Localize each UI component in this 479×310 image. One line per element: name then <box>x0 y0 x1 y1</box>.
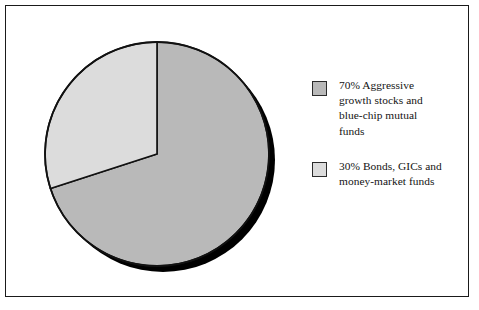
legend-item-bonds-gics: 30% Bonds, GICs and money-market funds <box>312 159 468 189</box>
pie-chart-figure: 70% Aggressive growth stocks and blue-ch… <box>0 0 479 310</box>
pie-svg <box>36 30 280 282</box>
legend-swatch-bonds-gics-icon <box>312 162 327 177</box>
legend-item-aggressive-growth: 70% Aggressive growth stocks and blue-ch… <box>312 78 468 139</box>
legend-label-aggressive-growth: 70% Aggressive growth stocks and blue-ch… <box>339 78 423 139</box>
legend-swatch-aggressive-growth-icon <box>312 81 327 96</box>
pie-chart-graphic <box>36 30 280 282</box>
chart-legend: 70% Aggressive growth stocks and blue-ch… <box>312 78 468 209</box>
legend-label-bonds-gics: 30% Bonds, GICs and money-market funds <box>339 159 442 189</box>
